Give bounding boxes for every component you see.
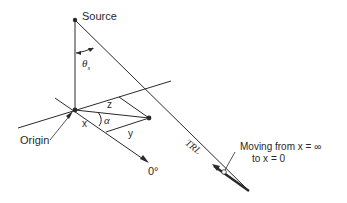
theta-arrow-left-icon xyxy=(76,51,81,55)
target-point xyxy=(147,116,152,121)
x-axis-arrowhead-icon xyxy=(140,155,149,163)
source-label: Source xyxy=(82,11,117,22)
moving-label-line2: to x = 0 xyxy=(252,153,285,164)
moving-marker xyxy=(222,170,227,175)
zero-degree-label: 0° xyxy=(148,166,159,177)
z-line xyxy=(75,110,149,118)
geometry-diagram xyxy=(0,0,347,203)
alpha-arc xyxy=(98,112,101,126)
x-label: x xyxy=(82,118,87,129)
origin-point xyxy=(73,108,78,113)
origin-pointer xyxy=(50,114,71,140)
z-label: z xyxy=(107,99,112,110)
origin-label: Origin xyxy=(20,135,49,146)
theta-subscript: s xyxy=(87,64,90,72)
trl-thick-segment xyxy=(214,166,249,191)
source-point xyxy=(73,18,77,22)
y-label: y xyxy=(128,128,133,139)
baseline xyxy=(18,81,171,128)
trl-line xyxy=(75,20,248,190)
theta-label: θs xyxy=(82,58,90,74)
moving-label-line1: Moving from x = ∞ xyxy=(240,141,321,152)
moving-pointer xyxy=(225,152,235,170)
alpha-label: α xyxy=(104,115,110,126)
